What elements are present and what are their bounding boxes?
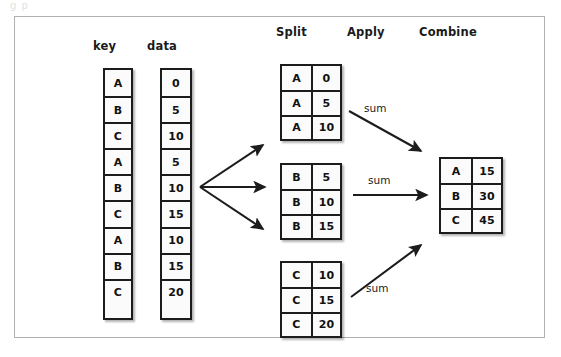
figure-frame: key data Split Apply Combine A B C A B C…: [14, 16, 545, 338]
table-row: C 10: [282, 263, 340, 287]
table-row: B: [105, 174, 131, 200]
table-row: 10: [162, 227, 190, 253]
header-combine: Combine: [419, 25, 477, 39]
table-row: A 5: [282, 90, 340, 114]
split-table-group-c: C 10 C 15 C 20: [280, 261, 342, 338]
key-cell: B: [105, 255, 131, 279]
combine-table: A 15 B 30 C 45: [439, 157, 503, 234]
table-row: 15: [162, 200, 190, 226]
data-cell: 10: [162, 229, 190, 253]
header-key: key: [93, 39, 116, 53]
split-fan-arrows: [200, 145, 265, 229]
split-key-cell: A: [282, 117, 311, 139]
split-key-cell: B: [282, 216, 311, 238]
apply-sum-arrows: [349, 111, 427, 297]
data-cell: 15: [162, 255, 190, 279]
table-row: C: [105, 279, 131, 305]
split-key-cell: B: [282, 165, 311, 189]
table-row: B 15: [282, 214, 340, 238]
data-cell: 5: [162, 150, 190, 174]
split-key-cell: C: [282, 263, 311, 287]
split-value-cell: 10: [311, 117, 340, 139]
combine-value-cell: 45: [471, 210, 501, 232]
table-row: C: [105, 122, 131, 148]
combine-value-cell: 15: [471, 159, 501, 183]
data-cell: 15: [162, 202, 190, 226]
data-cell: 10: [162, 124, 190, 148]
split-value-cell: 15: [311, 289, 340, 311]
data-cell: 20: [162, 281, 190, 305]
split-key-cell: A: [282, 92, 311, 114]
table-row: B 30: [441, 183, 501, 207]
table-row: 0: [162, 70, 190, 96]
table-row: B 10: [282, 189, 340, 213]
table-row: A: [105, 227, 131, 253]
split-value-cell: 10: [311, 191, 340, 213]
split-value-cell: 20: [311, 314, 340, 336]
combine-key-cell: A: [441, 159, 471, 183]
table-row: A 10: [282, 115, 340, 139]
split-value-cell: 15: [311, 216, 340, 238]
key-cell: B: [105, 176, 131, 200]
key-column: A B C A B C A B C: [103, 68, 133, 320]
split-key-cell: C: [282, 314, 311, 336]
data-cell: 0: [162, 70, 190, 96]
table-row: 10: [162, 174, 190, 200]
split-key-cell: B: [282, 191, 311, 213]
cropped-text-sliver: g p: [10, 0, 530, 12]
table-row: B: [105, 96, 131, 122]
split-key-cell: A: [282, 66, 311, 90]
header-split: Split: [276, 25, 307, 39]
data-cell: 10: [162, 176, 190, 200]
table-row: C 15: [282, 287, 340, 311]
combine-key-cell: B: [441, 185, 471, 207]
table-row: A: [105, 148, 131, 174]
table-row: A 15: [441, 159, 501, 183]
table-row: 10: [162, 122, 190, 148]
key-cell: B: [105, 98, 131, 122]
split-value-cell: 10: [311, 263, 340, 287]
apply-label-group-c: sum: [366, 282, 388, 294]
split-table-group-a: A 0 A 5 A 10: [280, 64, 342, 141]
table-row: A 0: [282, 66, 340, 90]
combine-key-cell: C: [441, 210, 471, 232]
apply-label-group-b: sum: [368, 174, 390, 186]
table-row: 5: [162, 148, 190, 174]
table-row: C 45: [441, 208, 501, 232]
table-row: B 5: [282, 165, 340, 189]
split-key-cell: C: [282, 289, 311, 311]
apply-label-group-a: sum: [364, 102, 386, 114]
table-row: 20: [162, 279, 190, 305]
header-apply: Apply: [347, 25, 385, 39]
key-cell: C: [105, 281, 131, 305]
split-table-group-b: B 5 B 10 B 15: [280, 163, 342, 240]
table-row: 15: [162, 253, 190, 279]
split-value-cell: 0: [311, 66, 340, 90]
key-cell: A: [105, 150, 131, 174]
split-value-cell: 5: [311, 92, 340, 114]
key-cell: C: [105, 202, 131, 226]
key-cell: A: [105, 70, 131, 96]
table-row: C 20: [282, 312, 340, 336]
table-row: B: [105, 253, 131, 279]
table-row: A: [105, 70, 131, 96]
combine-value-cell: 30: [471, 185, 501, 207]
data-column: 0 5 10 5 10 15 10 15 20: [160, 68, 192, 320]
key-cell: A: [105, 229, 131, 253]
key-cell: C: [105, 124, 131, 148]
table-row: 5: [162, 96, 190, 122]
table-row: C: [105, 200, 131, 226]
header-data: data: [147, 39, 177, 53]
split-value-cell: 5: [311, 165, 340, 189]
data-cell: 5: [162, 98, 190, 122]
